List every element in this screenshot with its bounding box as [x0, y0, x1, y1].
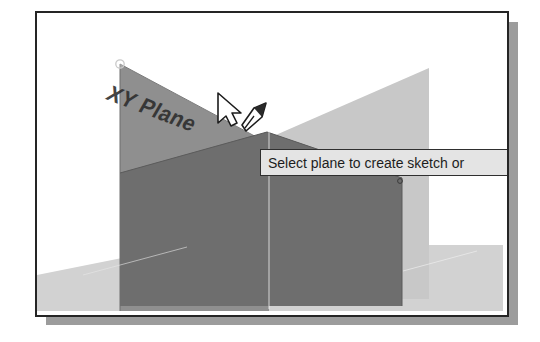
plane-corner-handle — [116, 60, 124, 68]
selection-tooltip: Select plane to create sketch or — [260, 149, 507, 176]
cad-viewport-window[interactable]: XY Plane Select plane to create sketch o… — [35, 11, 509, 317]
sketch-pencil-icon — [242, 103, 266, 131]
tooltip-text: Select plane to create sketch or — [268, 156, 464, 170]
mouse-cursor — [214, 91, 276, 143]
arrow-pointer-icon — [218, 93, 241, 126]
viewport-canvas[interactable]: XY Plane Select plane to create sketch o… — [37, 13, 507, 315]
screenshot-root: XY Plane Select plane to create sketch o… — [0, 0, 540, 342]
